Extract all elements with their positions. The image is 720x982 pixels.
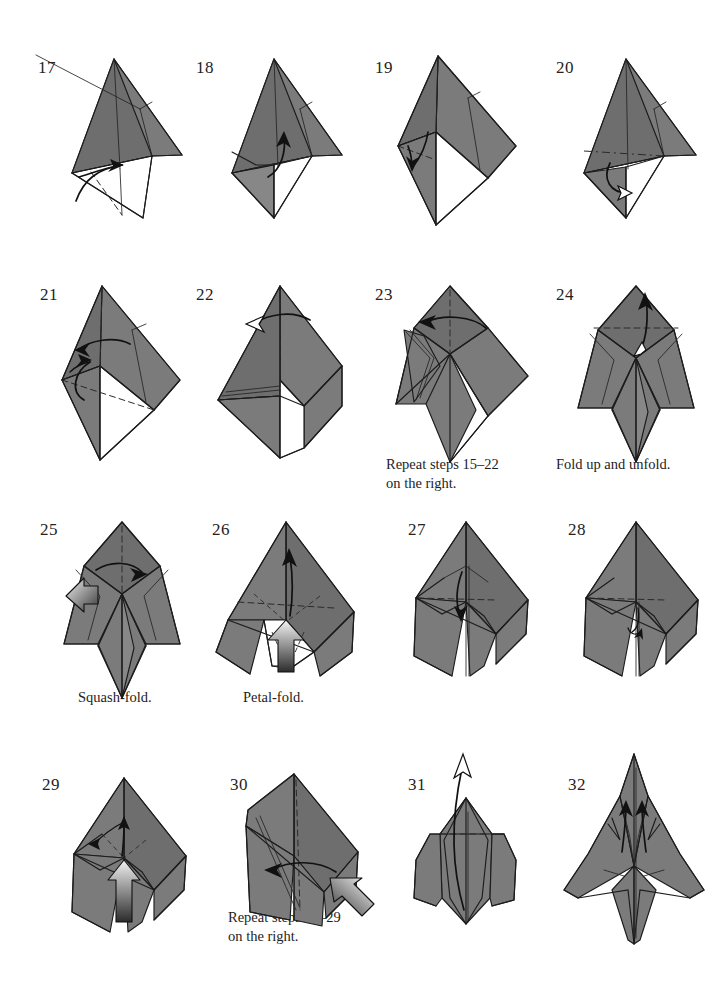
figure-step-19: [368, 50, 538, 225]
figure-step-20: [548, 55, 713, 220]
figure-step-23: [368, 280, 548, 465]
figure-step-32: [548, 748, 720, 948]
figure-step-29: [36, 760, 216, 950]
figure-step-28: [546, 516, 720, 701]
figure-step-22: [188, 280, 368, 460]
figure-step-27: [376, 516, 556, 701]
figure-step-18: [196, 55, 356, 220]
figure-step-17: [36, 55, 196, 220]
figure-step-26: [194, 516, 379, 701]
figure-step-24: [548, 280, 720, 465]
figure-step-30: [194, 760, 384, 950]
figure-step-31: [378, 748, 553, 948]
figure-step-21: [34, 280, 204, 460]
figure-step-25: [36, 516, 211, 701]
origami-diagram-page: 17 18 19 20 21 22 23 24 25 26 27 28 29 3…: [0, 0, 720, 982]
